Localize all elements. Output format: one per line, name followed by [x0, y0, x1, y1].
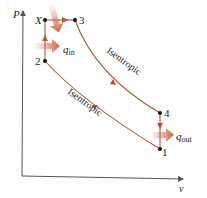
axes — [22, 11, 183, 179]
heat-out-label: qout — [176, 130, 193, 144]
pv-diagram: P v X 3 2 4 1 qin qout Isentropic — [0, 0, 207, 198]
point-X — [43, 18, 47, 22]
isentropic-label-lower: Isentropic — [66, 86, 105, 119]
point-4 — [158, 111, 162, 115]
label-point-3: 3 — [79, 14, 85, 26]
isentropic-label-upper: Isentropic — [105, 45, 144, 78]
process-1-2-isentropic — [45, 61, 160, 149]
y-axis — [22, 11, 23, 176]
y-axis-label: P — [12, 8, 20, 20]
label-point-4: 4 — [164, 107, 170, 119]
heat-in-label: qin — [63, 43, 75, 57]
label-point-1: 1 — [162, 146, 168, 158]
x-axis-label: v — [179, 183, 184, 194]
state-points — [43, 18, 162, 151]
arrow-right-icon — [62, 17, 68, 23]
cycle-curves — [45, 20, 160, 149]
heat-in-arrow-side-icon — [34, 39, 60, 53]
label-point-2: 2 — [35, 55, 41, 67]
x-axis — [22, 176, 183, 179]
direction-arrows — [42, 17, 163, 129]
point-3 — [73, 18, 77, 22]
heat-out-arrow — [150, 128, 174, 142]
heat-out-arrow-icon — [150, 128, 174, 142]
arrow-up-icon — [42, 35, 48, 41]
arrow-down-icon — [157, 123, 163, 129]
heat-in-arrows — [34, 3, 66, 53]
label-point-X: X — [34, 14, 43, 26]
point-2 — [43, 59, 47, 63]
